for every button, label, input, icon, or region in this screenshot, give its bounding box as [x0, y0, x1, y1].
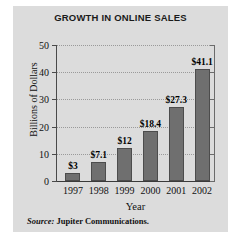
chart-panel: GROWTH IN ONLINE SALES Billions of Dolla… — [13, 6, 228, 232]
x-axis-tick-label: 1998 — [89, 185, 109, 196]
bar-value-label: $41.1 — [191, 57, 212, 67]
x-axis-tick-label: 2000 — [140, 185, 160, 196]
x-axis-line — [56, 181, 215, 182]
bar-value-label: $27.3 — [166, 95, 187, 105]
gridline — [57, 154, 214, 155]
bar — [143, 131, 158, 181]
bar-value-label: $18.4 — [140, 119, 161, 129]
y-axis-tick-label: 30 — [39, 94, 49, 105]
bar — [195, 69, 210, 181]
y-axis-tick-label: 20 — [39, 121, 49, 132]
y-axis-tick-label: 0 — [44, 176, 49, 187]
y-axis-tick-right — [210, 72, 215, 73]
source-text: Jupiter Communications. — [57, 216, 149, 226]
gridline — [57, 72, 214, 73]
y-axis-tick-right — [210, 154, 215, 155]
y-axis-tick-right — [210, 181, 215, 182]
plot-area: 01020304050 $3$7.1$12$18.4$27.3$41.1 199… — [56, 45, 215, 182]
gridline — [57, 99, 214, 100]
source-label: Source: — [27, 216, 54, 226]
bar — [91, 162, 106, 181]
y-axis-tick-right — [210, 45, 215, 46]
y-axis-tick — [52, 99, 57, 100]
x-axis-tick-label: 1997 — [63, 185, 83, 196]
bar-value-label: $7.1 — [90, 150, 107, 160]
x-axis-tick-label: 1999 — [115, 185, 135, 196]
bar — [169, 107, 184, 181]
x-axis-title: Year — [56, 201, 215, 212]
source-note: Source: Jupiter Communications. — [27, 216, 149, 226]
bar — [117, 148, 132, 181]
y-axis-title: Billions of Dollars — [28, 50, 39, 150]
bar — [65, 173, 80, 181]
y-axis-tick-right — [210, 127, 215, 128]
gridline — [57, 45, 214, 46]
y-axis-tick — [52, 45, 57, 46]
bar-value-label: $12 — [117, 136, 131, 146]
bar-value-label: $3 — [68, 161, 78, 171]
y-axis-tick-label: 50 — [39, 40, 49, 51]
chart-screenshot: GROWTH IN ONLINE SALES Billions of Dolla… — [0, 0, 241, 247]
y-axis-tick-label: 10 — [39, 148, 49, 159]
y-axis-tick — [52, 127, 57, 128]
y-axis-tick-label: 40 — [39, 67, 49, 78]
gridline — [57, 127, 214, 128]
y-axis-line — [56, 45, 57, 182]
y-axis-tick — [52, 72, 57, 73]
y-axis-tick — [52, 154, 57, 155]
y-axis-tick-right — [210, 99, 215, 100]
chart-title: GROWTH IN ONLINE SALES — [13, 12, 228, 23]
x-axis-tick-label: 2002 — [192, 185, 212, 196]
y-axis-line-right — [214, 45, 215, 182]
y-axis-tick — [52, 181, 57, 182]
x-axis-tick-label: 2001 — [166, 185, 186, 196]
